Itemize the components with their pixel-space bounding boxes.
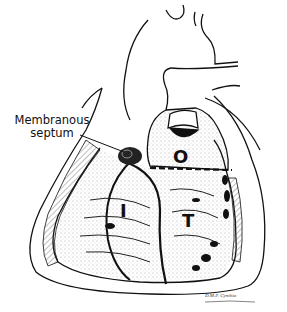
heart-illustration [0, 0, 287, 312]
callout-line2: septum [12, 127, 92, 140]
inlet-label: I [120, 200, 127, 221]
outlet-label: O [173, 146, 188, 167]
artist-signature: D.M.P. Cynthia [205, 293, 236, 298]
trabecular-label: T [182, 210, 194, 231]
membranous-septum-label: Membranous septum [12, 114, 92, 140]
